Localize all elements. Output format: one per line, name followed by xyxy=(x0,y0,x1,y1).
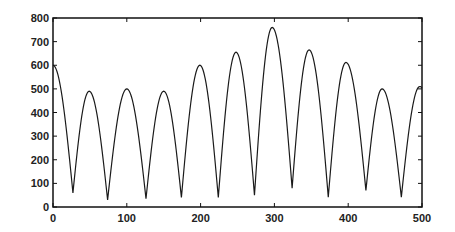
y-tick-label: 100 xyxy=(31,177,49,189)
y-tick-label: 200 xyxy=(31,154,49,166)
line-chart: 0100200300400500600700800 01002003004005… xyxy=(0,0,455,232)
x-tick-label: 300 xyxy=(265,212,283,224)
y-tick-label: 500 xyxy=(31,83,49,95)
y-tick-label: 0 xyxy=(43,201,49,213)
signal-line xyxy=(53,27,422,199)
x-tick-label: 500 xyxy=(413,212,431,224)
x-tick-label: 200 xyxy=(191,212,209,224)
y-tick-label: 800 xyxy=(31,12,49,24)
y-tick-label: 400 xyxy=(31,107,49,119)
x-tick-label: 0 xyxy=(50,212,56,224)
x-tick-label: 100 xyxy=(118,212,136,224)
y-tick-label: 700 xyxy=(31,36,49,48)
y-tick-label: 300 xyxy=(31,130,49,142)
y-tick-label: 600 xyxy=(31,59,49,71)
y-axis: 0100200300400500600700800 xyxy=(31,12,422,213)
x-tick-label: 400 xyxy=(339,212,357,224)
